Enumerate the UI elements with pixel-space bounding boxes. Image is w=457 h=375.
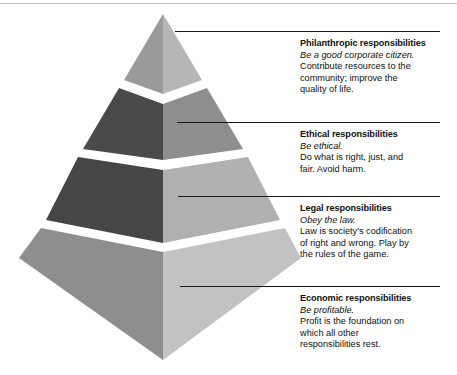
callout-ethical-body-line-1: Do what is right, just, and (300, 152, 450, 164)
callout-economic-body-line-3: responsibilities rest. (300, 339, 450, 351)
pyramid-tier-ethical-left-face (83, 88, 163, 160)
callout-ethical-title: Ethical responsibilities (300, 129, 450, 141)
callout-legal-body-line-3: the rules of the game. (300, 249, 450, 261)
pyramid-tier-ethical-right-face (163, 88, 243, 160)
pyramid-tier-philanthropic-left-face (124, 14, 163, 94)
callout-economic-motto: Be profitable. (300, 305, 450, 317)
callout-legal-body-line-1: Law is society's codification (300, 226, 450, 238)
callout-philanthropic-body-line-2: community; improve the (300, 73, 450, 85)
pyramid-tier-philanthropic-right-face (163, 14, 202, 94)
leader-line-philanthropic (175, 31, 440, 32)
callout-philanthropic-motto: Be a good corporate citizen. (300, 50, 450, 62)
callout-philanthropic-body-line-3: quality of life. (300, 84, 450, 96)
callout-legal-body-line-2: of right and wrong. Play by (300, 238, 450, 250)
callout-ethical-body-line-2: fair. Avoid harm. (300, 164, 450, 176)
callout-legal-title: Legal responsibilities (300, 203, 450, 215)
callout-philanthropic: Philanthropic responsibilities Be a good… (300, 38, 450, 96)
callout-philanthropic-title: Philanthropic responsibilities (300, 38, 450, 50)
callout-legal: Legal responsibilities Obey the law. Law… (300, 203, 450, 261)
callout-economic-title: Economic responsibilities (300, 293, 450, 305)
pyramid-tier-legal-right-face (163, 157, 280, 243)
callout-philanthropic-body-line-1: Contribute resources to the (300, 61, 450, 73)
pyramid-tier-economic-right-face (163, 228, 301, 360)
callout-ethical-motto: Be ethical. (300, 141, 450, 153)
callout-economic-body-line-1: Profit is the foundation on (300, 316, 450, 328)
callout-economic: Economic responsibilities Be profitable.… (300, 293, 450, 351)
pyramid-tier-legal-left-face (46, 157, 163, 243)
callout-legal-motto: Obey the law. (300, 215, 450, 227)
callout-ethical: Ethical responsibilities Be ethical. Do … (300, 129, 450, 175)
callout-economic-body-line-2: which all other (300, 328, 450, 340)
leader-line-ethical (177, 122, 440, 123)
leader-line-economic (180, 286, 440, 287)
pyramid-tier-economic-left-face (19, 228, 163, 360)
leader-line-legal (178, 196, 440, 197)
pyramid-figure: Philanthropic responsibilities Be a good… (0, 0, 457, 375)
